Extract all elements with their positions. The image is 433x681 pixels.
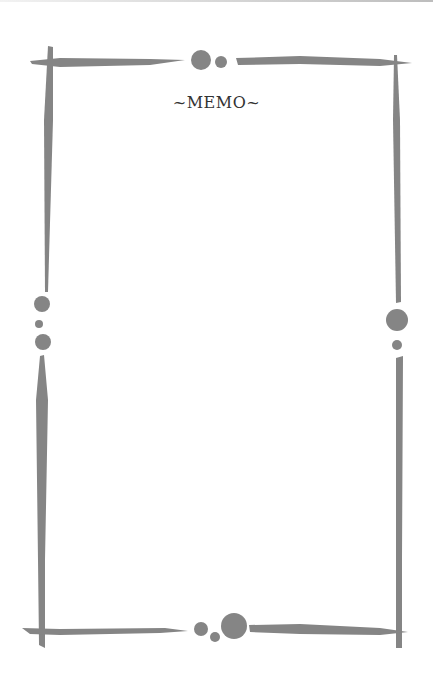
frame-left-upper-bar <box>44 46 53 292</box>
memo-title: ~MEMO~ <box>0 93 433 112</box>
frame-left-dot-3 <box>35 334 51 350</box>
frame-bottom-left-bar <box>22 628 188 635</box>
frame-top-right-bar <box>236 56 412 66</box>
frame-top-dot-small <box>215 56 227 68</box>
frame-bottom-dot-3 <box>221 613 247 639</box>
frame-right-dot-large <box>386 309 408 331</box>
frame-right-dot-small <box>392 340 402 350</box>
frame-bottom-dot-2 <box>210 632 220 642</box>
frame-bottom-right-bar <box>249 624 408 635</box>
frame-left-dot-1 <box>34 296 50 312</box>
frame-bottom-dot-1 <box>194 622 208 636</box>
frame-right-lower-bar <box>396 356 403 648</box>
frame-top-left-bar <box>30 58 185 67</box>
frame-left-lower-bar <box>36 355 48 648</box>
frame-left-dot-2 <box>35 320 43 328</box>
frame-top-dot-large <box>191 50 211 70</box>
